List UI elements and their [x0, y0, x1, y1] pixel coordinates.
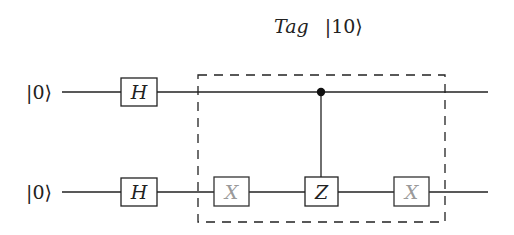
gate-h-qubit-1: H [121, 178, 157, 206]
gate-x-left: X [214, 177, 249, 206]
gate-x-right: X [394, 177, 429, 206]
svg-text:Z: Z [314, 181, 329, 203]
oracle-title-ket: |10⟩ [325, 15, 363, 38]
gate-z: Z [305, 177, 338, 206]
qubit-0-input: |0⟩ [26, 81, 52, 104]
control-dot-icon [317, 88, 325, 96]
gate-h-qubit-0: H [121, 78, 157, 106]
svg-text:X: X [403, 181, 420, 203]
oracle-title-word: Tag [274, 15, 309, 37]
oracle-title: Tag |10⟩ [274, 15, 363, 38]
svg-text:X: X [223, 181, 240, 203]
quantum-circuit-diagram: Tag |10⟩ |0⟩ |0⟩ H H X Z [0, 0, 514, 235]
qubit-1-input: |0⟩ [26, 181, 52, 204]
svg-text:H: H [130, 81, 148, 103]
circuit-svg: Tag |10⟩ |0⟩ |0⟩ H H X Z [0, 0, 514, 235]
svg-text:H: H [130, 181, 148, 203]
